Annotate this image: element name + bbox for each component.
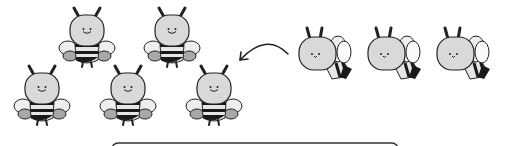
group-bee (14, 66, 70, 125)
bee-scene (0, 0, 510, 146)
flying-bee (299, 28, 352, 79)
group-bee (144, 8, 200, 67)
group-bee (186, 66, 242, 125)
flying-bee (368, 28, 421, 79)
answer-box (112, 143, 398, 146)
group-bee (100, 66, 156, 125)
curved-arrow-icon (240, 44, 288, 60)
flying-bees (299, 28, 490, 79)
flying-bee (437, 28, 490, 79)
group-bee (59, 8, 115, 67)
group-bees (14, 8, 242, 125)
